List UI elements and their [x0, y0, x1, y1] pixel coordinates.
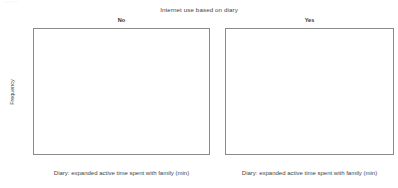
- plot-area-yes: [225, 28, 394, 155]
- figure-root: Internet use based on diary No Frequency…: [0, 0, 398, 188]
- panel-no: No Frequency Diary: expanded active time…: [0, 0, 214, 188]
- panel-yes: Yes Diary: expanded active time spent wi…: [214, 0, 398, 188]
- plot-area-no: [33, 28, 210, 155]
- histogram-bars-no: [34, 29, 209, 154]
- panel-strip-label-yes: Yes: [225, 16, 394, 25]
- x-axis-label-no: Diary: expanded active time spent with f…: [33, 170, 210, 176]
- y-axis-label: Frequency: [9, 62, 19, 122]
- panel-strip-label-no: No: [33, 16, 210, 25]
- histogram-bars-yes: [226, 29, 393, 154]
- x-axis-label-yes: Diary: expanded active time spent with f…: [219, 170, 398, 176]
